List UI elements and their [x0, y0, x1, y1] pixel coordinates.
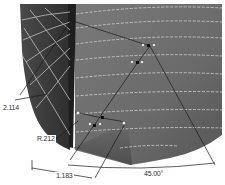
surface-left [20, 4, 70, 150]
cad-model-svg [0, 0, 225, 185]
dimension-label-angle[interactable]: 45.00° [143, 170, 164, 178]
dimension-label-radius[interactable]: R.212 [36, 135, 56, 143]
dimension-label-length[interactable]: 1.183 [55, 172, 74, 180]
dimension-label-distance[interactable]: 2.114 [2, 104, 20, 112]
cad-viewport[interactable]: 2.114 R.212 1.183 45.00° [0, 0, 225, 185]
